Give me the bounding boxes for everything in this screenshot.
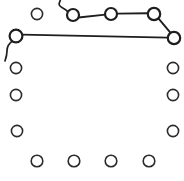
node-left-1[interactable] [10, 62, 21, 73]
node-graph-diagram [0, 0, 184, 181]
nodes-layer [10, 8, 181, 167]
node-left-2[interactable] [10, 89, 21, 100]
node-left-top[interactable] [10, 30, 23, 43]
node-bottom-1[interactable] [31, 155, 43, 167]
edge-node-left-top-hook-tail [5, 41, 13, 61]
edge-node-top-2-to-node-top-3 [79, 15, 106, 18]
figure-canvas [0, 0, 184, 181]
node-top-3[interactable] [105, 8, 117, 20]
node-top-1[interactable] [31, 8, 42, 19]
node-left-3[interactable] [11, 125, 22, 136]
edges-layer [5, 0, 171, 61]
edge-node-top-4-to-node-right-top [159, 19, 171, 33]
edge-tail-to-node-top-2 [59, 0, 68, 12]
node-bottom-2[interactable] [68, 155, 80, 167]
node-top-2[interactable] [67, 9, 79, 21]
node-top-4[interactable] [148, 8, 160, 20]
node-right-1[interactable] [167, 62, 178, 73]
node-right-3[interactable] [167, 125, 178, 136]
edge-node-left-top-to-node-right-top [22, 35, 168, 38]
node-right-top[interactable] [168, 32, 180, 44]
node-bottom-4[interactable] [143, 155, 155, 167]
node-right-2[interactable] [167, 89, 178, 100]
node-bottom-3[interactable] [105, 155, 117, 167]
